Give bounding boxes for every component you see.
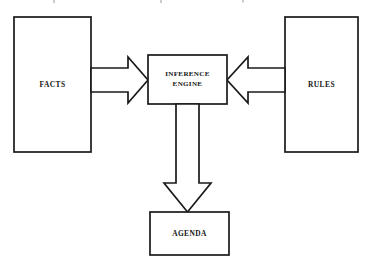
node-facts-label: FACTS: [40, 80, 66, 89]
clipped-text-artifacts: [53, 0, 244, 3]
inference-engine-diagram: FACTS RULES INFERENCE ENGINE AGENDA: [0, 0, 370, 275]
diagram-canvas: FACTS RULES INFERENCE ENGINE AGENDA: [0, 0, 370, 275]
node-rules-label: RULES: [308, 80, 335, 89]
arrow-rules-to-engine: [227, 57, 285, 103]
node-inference-engine-label-line2: ENGINE: [173, 80, 203, 88]
arrow-facts-to-engine: [91, 57, 148, 103]
arrow-engine-to-agenda: [164, 104, 211, 212]
node-agenda-label: AGENDA: [172, 229, 207, 238]
node-inference-engine-label-line1: INFERENCE: [165, 70, 209, 78]
